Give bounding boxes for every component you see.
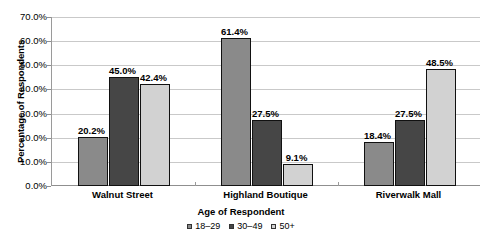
x-axis-category-label: Walnut Street <box>51 189 194 200</box>
y-axis-tick-mark <box>47 65 51 66</box>
bar <box>78 137 108 186</box>
legend-label: 30–49 <box>237 221 262 231</box>
bar <box>426 69 456 186</box>
y-axis-tick-mark <box>47 89 51 90</box>
y-axis-tick-label: 60.0% <box>1 35 47 46</box>
chart-legend: 18–2930–4950+ <box>0 221 482 231</box>
y-axis-tick-mark <box>47 138 51 139</box>
plot-area <box>51 17 480 186</box>
gridline <box>52 41 480 42</box>
bar-value-label: 18.4% <box>355 130 401 141</box>
x-axis-category-label: Highland Boutique <box>194 189 337 200</box>
y-axis-tick-mark <box>47 186 51 187</box>
y-axis-tick-label: 50.0% <box>1 59 47 70</box>
y-axis-tick-mark <box>47 114 51 115</box>
bar-chart: Percentage of Respondents Age of Respond… <box>0 0 482 237</box>
x-axis-group-separator <box>338 182 339 186</box>
bar <box>364 142 394 186</box>
bar-value-label: 48.5% <box>417 57 463 68</box>
legend-label: 18–29 <box>195 221 220 231</box>
bar-value-label: 61.4% <box>212 26 258 37</box>
bar-value-label: 27.5% <box>386 108 432 119</box>
x-axis-category-label: Riverwalk Mall <box>337 189 480 200</box>
legend-swatch-icon <box>229 224 234 229</box>
bar <box>283 164 313 186</box>
x-axis-title: Age of Respondent <box>0 206 482 217</box>
gridline <box>52 17 480 18</box>
y-axis-tick-mark <box>47 17 51 18</box>
y-axis-tick-label: 10.0% <box>1 156 47 167</box>
y-axis-tick-label: 30.0% <box>1 108 47 119</box>
chart-title <box>0 0 482 3</box>
y-axis-tick-label: 70.0% <box>1 11 47 22</box>
bar-value-label: 9.1% <box>274 152 320 163</box>
legend-swatch-icon <box>187 224 192 229</box>
legend-entry[interactable]: 50+ <box>271 221 294 231</box>
bar <box>140 84 170 186</box>
y-axis-tick-label: 0.0% <box>1 180 47 191</box>
y-axis-tick-label: 40.0% <box>1 83 47 94</box>
legend-entry[interactable]: 18–29 <box>187 221 220 231</box>
y-axis-tick-mark <box>47 41 51 42</box>
bar-value-label: 27.5% <box>243 108 289 119</box>
y-axis-tick-label: 20.0% <box>1 132 47 143</box>
y-axis-tick-mark <box>47 162 51 163</box>
legend-swatch-icon <box>271 224 276 229</box>
legend-label: 50+ <box>279 221 294 231</box>
bar-value-label: 42.4% <box>131 72 177 83</box>
bar-value-label: 20.2% <box>69 125 115 136</box>
x-axis-group-separator <box>195 182 196 186</box>
legend-entry[interactable]: 30–49 <box>229 221 262 231</box>
